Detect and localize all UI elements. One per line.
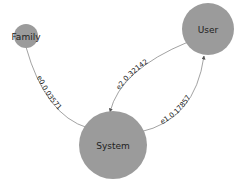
edge-user-system[interactable] — [110, 42, 188, 112]
node-label-system: System — [96, 141, 130, 151]
node-family[interactable]: Family — [12, 24, 42, 48]
node-label-family: Family — [12, 32, 42, 42]
edge-system-user[interactable] — [140, 56, 204, 132]
node-system[interactable]: System — [79, 111, 147, 179]
edge-label-e2: e2.0.32142 — [115, 58, 150, 92]
graph-canvas: e0.0.03571 e2.0.32142 e1.0.17857 Family … — [0, 0, 235, 183]
edge-label-e1: e1.0.17857 — [159, 94, 192, 126]
edge-family-system[interactable] — [26, 47, 88, 128]
node-label-user: User — [198, 25, 219, 35]
edge-label-e0: e0.0.03571 — [35, 75, 63, 112]
node-user[interactable]: User — [182, 3, 234, 55]
